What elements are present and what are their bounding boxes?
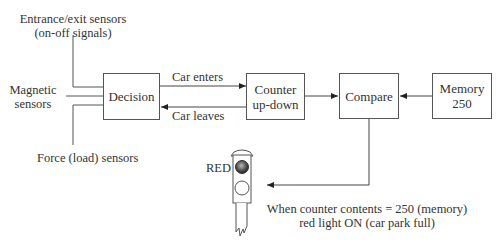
- entrance-label-line1: Entrance/exit sensors: [2, 12, 144, 26]
- counter-block: Counter up-down: [246, 73, 305, 120]
- red-lamp-icon: [236, 161, 249, 174]
- entrance-label-line2: (on-off signals): [2, 26, 144, 40]
- light-post: [236, 203, 247, 236]
- counter-label-line2: up-down: [252, 97, 298, 112]
- compare-block: Compare: [339, 73, 399, 119]
- magnetic-label-line2: sensors: [1, 97, 65, 111]
- decision-label: Decision: [108, 89, 154, 104]
- decision-block: Decision: [103, 73, 160, 120]
- note-line2: red light ON (car park full): [257, 216, 477, 230]
- magnetic-label-line1: Magnetic: [1, 83, 65, 97]
- entrance-sensor-line: [73, 35, 103, 87]
- compare-to-light-arrow: [267, 118, 369, 185]
- compare-label: Compare: [345, 89, 393, 104]
- car-leaves-label: Car leaves: [172, 109, 224, 123]
- memory-label-line2: 250: [452, 96, 472, 111]
- traffic-light-icon: [231, 150, 253, 236]
- red-light-label: RED: [206, 161, 231, 175]
- counter-label-line1: Counter: [255, 82, 297, 97]
- condition-note: When counter contents = 250 (memory) red…: [257, 202, 477, 230]
- entrance-exit-sensors-label: Entrance/exit sensors (on-off signals): [2, 12, 144, 40]
- memory-block: Memory 250: [432, 73, 492, 119]
- car-enters-label: Car enters: [172, 70, 223, 84]
- force-sensor-line: [73, 105, 103, 145]
- force-sensors-label: Force (load) sensors: [37, 151, 138, 165]
- off-lamp-icon: [235, 181, 249, 195]
- memory-label-line1: Memory: [440, 81, 485, 96]
- note-line1: When counter contents = 250 (memory): [257, 202, 477, 216]
- magnetic-sensors-label: Magnetic sensors: [1, 83, 65, 111]
